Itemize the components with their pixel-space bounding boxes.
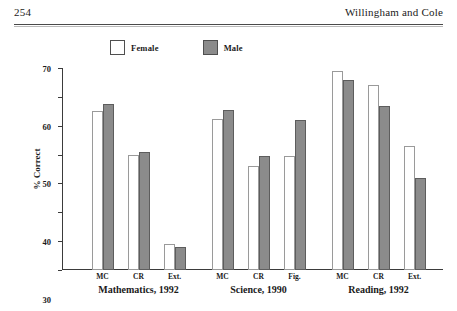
- gray-square-icon: [203, 40, 218, 55]
- bar-male-science-cr: [259, 156, 270, 270]
- category-label: Fig.: [288, 272, 300, 281]
- y-tick-label: 40: [43, 237, 52, 247]
- category-label: CR: [133, 272, 144, 281]
- bar-female-reading-cr: [368, 85, 379, 270]
- figure-page: 254 Willingham and Cole Female Male % Co…: [0, 0, 457, 311]
- legend-item-male: Male: [203, 40, 243, 55]
- bar-male-mathematics-ext: [175, 247, 186, 270]
- category-label: CR: [253, 272, 264, 281]
- category-label: Ext.: [168, 272, 181, 281]
- category-label-group: MCCRExt.MCCRFig.MCCRExt.: [62, 272, 443, 284]
- category-label: CR: [373, 272, 384, 281]
- bar-male-reading-mc: [343, 80, 354, 270]
- y-tick-label: 50: [43, 179, 52, 189]
- white-square-icon: [110, 40, 125, 55]
- page-number: 254: [14, 6, 31, 18]
- bar-male-science-mc: [223, 110, 234, 270]
- legend-label-male: Male: [224, 43, 243, 53]
- bar-female-science-fig: [284, 156, 295, 270]
- bar-male-mathematics-mc: [103, 104, 114, 270]
- bar-female-reading-ext: [404, 146, 415, 270]
- header-rule: [14, 24, 443, 25]
- category-label: Ext.: [408, 272, 421, 281]
- category-label: MC: [216, 272, 229, 281]
- group-label: Reading, 1992: [348, 284, 409, 295]
- bar-female-science-cr: [248, 166, 259, 270]
- bar-female-mathematics-mc: [92, 111, 103, 270]
- legend-item-female: Female: [110, 40, 159, 55]
- group-label-group: Mathematics, 1992Science, 1990Reading, 1…: [62, 284, 443, 300]
- bar-group: [62, 68, 443, 270]
- bar-female-reading-mc: [332, 71, 343, 270]
- y-tick-label: 70: [43, 64, 52, 74]
- bar-female-mathematics-cr: [128, 155, 139, 270]
- bar-male-science-fig: [295, 120, 306, 270]
- category-label: MC: [336, 272, 349, 281]
- y-axis-label: % Correct: [32, 148, 42, 189]
- running-head: Willingham and Cole: [345, 6, 443, 18]
- bar-male-reading-ext: [415, 178, 426, 270]
- plot-area: % Correct 010203040506070: [62, 68, 443, 270]
- y-tick: 0: [58, 270, 62, 271]
- bar-male-mathematics-cr: [139, 152, 150, 270]
- bar-female-science-mc: [212, 119, 223, 271]
- y-tick-label: 60: [43, 122, 52, 132]
- chart-legend: Female Male: [110, 40, 243, 55]
- bar-male-reading-cr: [379, 106, 390, 270]
- category-label: MC: [96, 272, 109, 281]
- legend-label-female: Female: [131, 43, 159, 53]
- group-label: Science, 1990: [230, 284, 287, 295]
- y-tick-label: 30: [43, 295, 52, 305]
- group-label: Mathematics, 1992: [98, 284, 179, 295]
- page-header: 254 Willingham and Cole: [0, 0, 457, 30]
- bar-female-mathematics-ext: [164, 244, 175, 270]
